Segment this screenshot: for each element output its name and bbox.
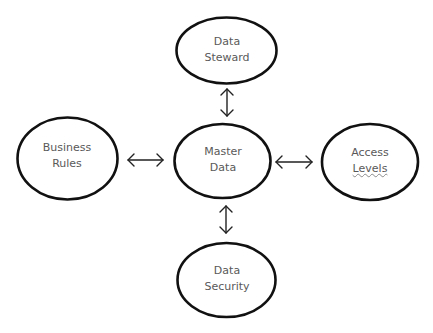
node-left-line1: Business <box>26 140 108 156</box>
node-right-line1: Access <box>329 145 411 161</box>
node-bottom-label: Data Security <box>186 263 268 295</box>
node-bottom-line1: Data <box>186 263 268 279</box>
arrow-center-left <box>128 154 163 166</box>
arrow-center-top <box>221 89 233 116</box>
node-left-label: Business Rules <box>26 140 108 172</box>
node-top-label: Data Steward <box>186 34 268 66</box>
node-top-line2: Steward <box>186 50 268 66</box>
node-center-label: Master Data <box>182 144 264 176</box>
node-bottom-line2: Security <box>186 279 268 295</box>
node-right-label: Access Levels <box>329 145 411 177</box>
node-left-line2: Rules <box>26 156 108 172</box>
arrow-center-right <box>276 156 312 168</box>
node-center-line1: Master <box>182 144 264 160</box>
arrow-center-bottom <box>220 206 232 233</box>
node-right-line2: Levels <box>329 161 411 177</box>
node-center-line2: Data <box>182 160 264 176</box>
node-top-line1: Data <box>186 34 268 50</box>
